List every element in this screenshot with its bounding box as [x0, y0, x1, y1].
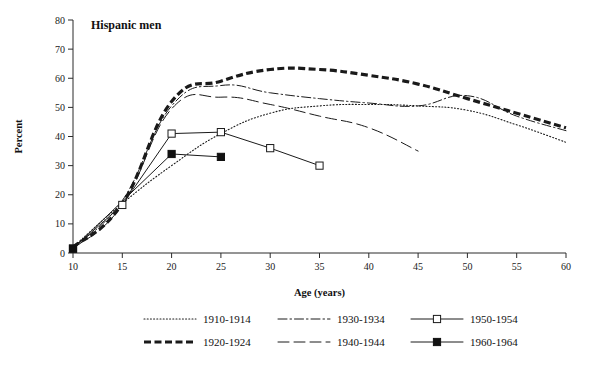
x-tick-label: 55	[512, 261, 522, 272]
x-tick-label: 20	[167, 261, 177, 272]
series-line-1910-1914	[73, 104, 566, 247]
marker-1950-1954	[267, 145, 274, 152]
y-tick-label: 0	[60, 248, 65, 259]
series-line-1940-1944	[73, 94, 418, 248]
marker-1960-1964	[69, 245, 76, 252]
x-tick-label: 25	[216, 261, 226, 272]
legend-label-1930-1934: 1930-1934	[337, 313, 385, 325]
y-tick-label: 70	[55, 44, 65, 55]
axes: 010203040506070801015202530354045505560	[55, 15, 571, 273]
marker-1960-1964	[168, 150, 175, 157]
legend-label-1960-1964: 1960-1964	[470, 336, 518, 348]
marker-1960-1964	[217, 153, 224, 160]
y-tick-label: 30	[55, 160, 65, 171]
x-tick-label: 30	[265, 261, 275, 272]
x-tick-label: 40	[364, 261, 374, 272]
x-tick-label: 15	[117, 261, 127, 272]
x-axis-title: Age (years)	[294, 287, 346, 299]
series-line-1950-1954	[73, 132, 320, 249]
legend-label-1920-1924: 1920-1924	[203, 336, 251, 348]
y-tick-label: 40	[55, 131, 65, 142]
y-axis-title: Percent	[13, 119, 24, 154]
y-tick-label: 60	[55, 73, 65, 84]
y-tick-label: 10	[55, 218, 65, 229]
x-tick-label: 45	[413, 261, 423, 272]
chart-legend: 1910-19141920-19241930-19341940-19441950…	[144, 313, 518, 348]
x-tick-label: 50	[462, 261, 472, 272]
legend-marker-1950-1954	[433, 315, 440, 322]
x-tick-label: 60	[561, 261, 571, 272]
legend-label-1950-1954: 1950-1954	[470, 313, 518, 325]
marker-1950-1954	[316, 162, 323, 169]
x-tick-label: 35	[315, 261, 325, 272]
y-tick-label: 80	[55, 15, 65, 26]
series-markers	[69, 129, 323, 253]
y-tick-label: 50	[55, 102, 65, 113]
x-tick-label: 10	[68, 261, 78, 272]
legend-marker-1960-1964	[433, 338, 440, 345]
series-lines	[73, 68, 566, 249]
marker-1950-1954	[119, 201, 126, 208]
chart-figure: 010203040506070801015202530354045505560 …	[0, 0, 613, 369]
legend-label-1910-1914: 1910-1914	[203, 313, 251, 325]
panel-title: Hispanic men	[91, 18, 162, 32]
line-chart: 010203040506070801015202530354045505560 …	[0, 0, 613, 369]
marker-1950-1954	[217, 129, 224, 136]
y-tick-label: 20	[55, 189, 65, 200]
legend-label-1940-1944: 1940-1944	[337, 336, 385, 348]
marker-1950-1954	[168, 130, 175, 137]
series-line-1920-1924	[73, 68, 566, 247]
